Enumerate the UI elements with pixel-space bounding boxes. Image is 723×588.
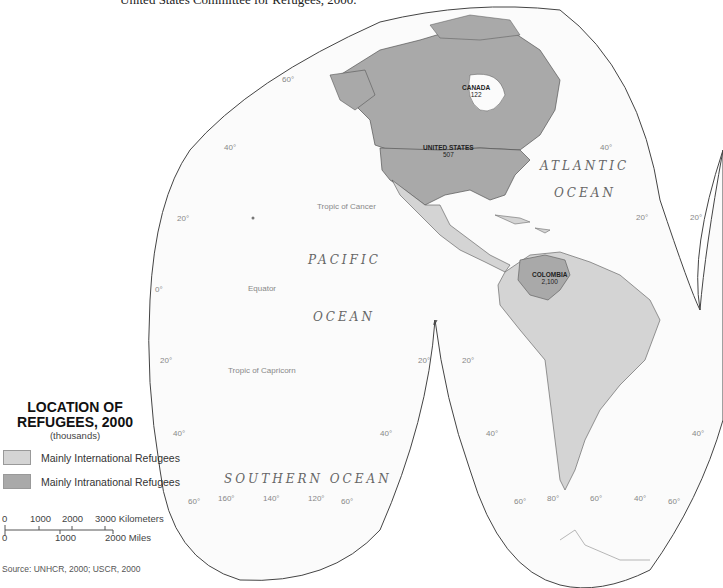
lon-label: 120°: [308, 494, 325, 503]
scale-bar: 0 1000 2000 3000 Kilometers 0 1000 2000 …: [0, 513, 180, 553]
lat-label: 40°: [224, 143, 236, 152]
lat-label: 20°: [462, 356, 474, 365]
label-canada: CANADA 122: [462, 84, 490, 98]
label-atlantic-ocean-1: ATLANTIC: [540, 159, 629, 173]
legend-title-line-1: LOCATION OF: [0, 400, 150, 415]
lat-label: 40°: [600, 143, 612, 152]
swatch-international: [3, 450, 31, 465]
legend-item-intranational: Mainly Intranational Refugees: [0, 474, 180, 489]
source-note: Source: UNHCR, 2000; USCR, 2000: [2, 564, 140, 574]
map-legend: LOCATION OF REFUGEES, 2000 (thousands) M…: [0, 400, 180, 489]
hawaii: [252, 217, 255, 220]
lon-label: 60°: [590, 494, 602, 503]
lon-label: 140°: [263, 494, 280, 503]
lat-label: 40°: [486, 429, 498, 438]
lon-label: 80°: [547, 494, 559, 503]
lat-label: 20°: [160, 356, 172, 365]
lat-label: 20°: [690, 213, 702, 222]
label-southern-ocean: SOUTHERN OCEAN: [224, 472, 392, 486]
label-pacific-ocean-1: PACIFIC: [308, 253, 381, 267]
lat-label: 20°: [636, 213, 648, 222]
swatch-intranational: [3, 474, 31, 489]
label-equator: Equator: [248, 284, 276, 293]
label-colombia: COLOMBIA 2,100: [532, 271, 567, 285]
label-tropic-of-capricorn: Tropic of Capricorn: [228, 366, 296, 375]
lat-label: 40°: [380, 429, 392, 438]
lat-label: 60°: [282, 75, 294, 84]
lon-label: 60°: [668, 497, 680, 506]
lat-label: 20°: [177, 214, 189, 223]
label-atlantic-ocean-2: OCEAN: [554, 186, 616, 200]
lon-label: 40°: [634, 494, 646, 503]
label-pacific-ocean-2: OCEAN: [313, 310, 375, 324]
lat-label: 20°: [418, 356, 430, 365]
lat-label: 60°: [188, 497, 200, 506]
label-united-states: UNITED STATES 507: [423, 144, 474, 158]
legend-title-line-2: REFUGEES, 2000: [0, 415, 150, 430]
legend-subtitle: (thousands): [0, 430, 150, 441]
lon-label: 60°: [514, 497, 526, 506]
legend-item-international: Mainly International Refugees: [0, 450, 180, 465]
lon-label: 160°: [218, 494, 235, 503]
label-tropic-of-cancer: Tropic of Cancer: [317, 202, 376, 211]
lat-label: 0°: [155, 285, 163, 294]
lat-label: 40°: [692, 429, 704, 438]
lon-label: 60°: [341, 497, 353, 506]
world-map: [0, 0, 723, 588]
